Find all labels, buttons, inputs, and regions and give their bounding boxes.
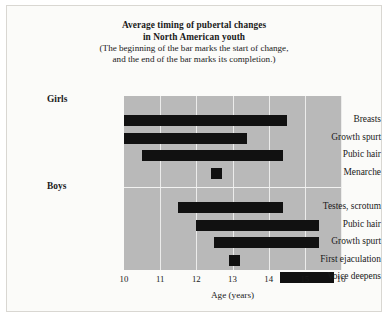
row-label: Growth spurt [269,236,381,247]
section-divider [124,187,341,188]
bar [124,133,247,144]
row-label: Voice deepens [269,271,381,282]
group-label-girls: Girls [47,94,67,105]
bar [124,115,287,126]
bar [211,168,222,179]
x-axis-title: Age (years) [124,290,341,300]
chart-title-line-1: Average timing of pubertal changes [7,20,381,32]
row-label: Breasts [269,114,381,125]
row-label: Growth spurt [269,132,381,143]
tick-label-12: 12 [183,274,209,284]
row-label: Pubic hair [269,219,381,230]
tick-label-10: 10 [111,274,137,284]
chart-title-line-2: in North American youth [7,32,381,44]
chart-subtitle-line-1: (The beginning of the bar marks the star… [7,43,381,54]
bar [142,150,283,161]
chart-subtitle-line-2: and the end of the bar marks its complet… [7,54,381,65]
figure-panel: Average timing of pubertal changes in No… [6,5,382,312]
tick-label-11: 11 [147,274,173,284]
row-label: Menarche [269,167,381,178]
row-label: Testes, scrotum [269,201,381,212]
row-label: Pubic hair [269,149,381,160]
group-label-boys: Boys [47,181,66,192]
tick-label-13: 13 [220,274,246,284]
chart-title-block: Average timing of pubertal changes in No… [7,20,381,66]
bar [178,202,283,213]
bar [229,255,240,266]
row-label: First ejaculation [269,254,381,265]
